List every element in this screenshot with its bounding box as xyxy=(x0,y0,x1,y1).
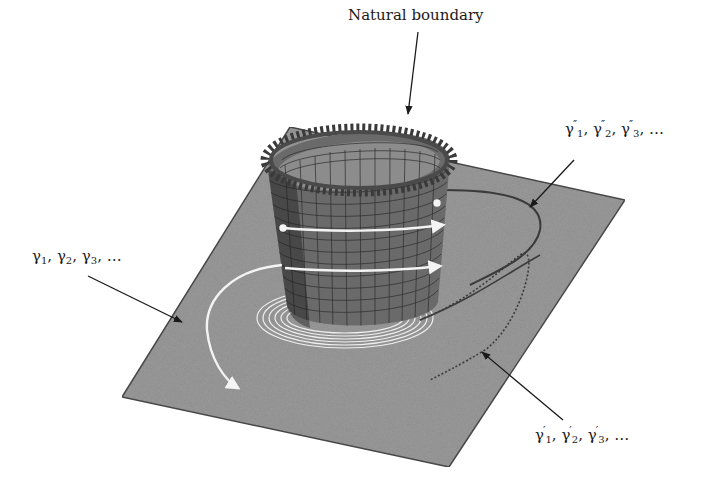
arrow-gamma xyxy=(88,276,182,322)
arrow-natural-boundary xyxy=(408,32,418,114)
gamma-label: γ1, γ2, γ3, … xyxy=(32,247,122,266)
natural-boundary-label: Natural boundary xyxy=(348,6,484,24)
gamma-double-prime-label: γ″1, γ″2, γ″3, … xyxy=(565,118,664,139)
riemann-surface-diagram xyxy=(0,0,707,488)
gamma-prime-label: γ′1, γ′2, γ′3, … xyxy=(535,424,629,445)
